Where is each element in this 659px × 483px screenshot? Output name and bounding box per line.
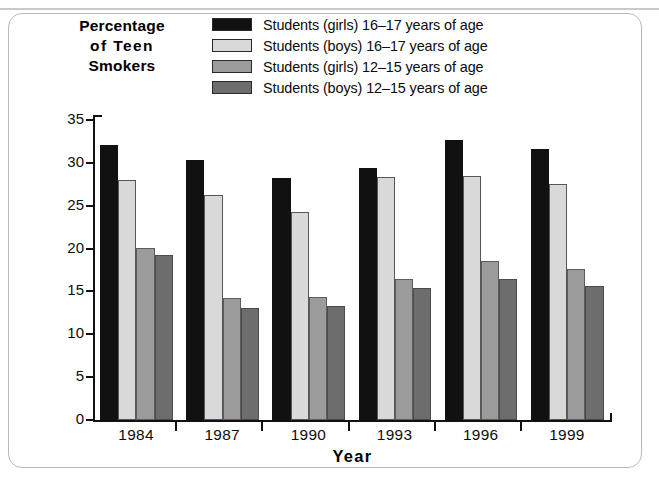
y-axis-title-line-2: of Teen xyxy=(52,36,192,56)
legend-item: Students (boys) 16–17 years of age xyxy=(212,35,488,56)
legend-item-label: Students (boys) 12–15 years of age xyxy=(263,80,488,96)
legend-item-label: Students (girls) 16–17 years of age xyxy=(263,17,483,33)
bar-group xyxy=(445,120,518,420)
legend-swatch-icon xyxy=(212,39,252,52)
bar xyxy=(549,184,567,420)
x-axis-tick-label: 1999 xyxy=(524,426,610,444)
x-axis-tick-mark xyxy=(348,421,350,431)
bar xyxy=(499,279,517,420)
y-axis-top-cap xyxy=(93,115,102,117)
legend-swatch-icon xyxy=(212,18,252,31)
bar xyxy=(155,255,173,420)
bar xyxy=(241,308,259,420)
bar xyxy=(100,145,118,420)
y-axis-tick-label: 5 xyxy=(76,367,84,384)
x-axis-tick-mark xyxy=(261,421,263,431)
bar xyxy=(377,177,395,420)
legend-swatch-icon xyxy=(212,60,252,73)
bar-group xyxy=(186,120,259,420)
x-axis-line xyxy=(93,420,612,422)
bar xyxy=(481,261,499,420)
x-axis-tick-mark xyxy=(434,421,436,431)
x-axis-tick-label: 1996 xyxy=(438,426,524,444)
legend-item-label: Students (girls) 12–15 years of age xyxy=(263,59,483,75)
x-axis-tick-label: 1993 xyxy=(352,426,438,444)
y-axis-tick-mark xyxy=(86,333,94,335)
bar xyxy=(585,286,603,420)
y-axis-tick-mark xyxy=(86,248,94,250)
bar-group xyxy=(531,120,604,420)
bar xyxy=(463,176,481,420)
y-axis-title-line-3: Smokers xyxy=(52,56,192,76)
bar xyxy=(118,180,136,420)
bar xyxy=(186,160,204,420)
y-axis-tick-label: 0 xyxy=(76,410,84,427)
legend-item: Students (girls) 16–17 years of age xyxy=(212,14,488,35)
legend-item-label: Students (boys) 16–17 years of age xyxy=(263,38,488,54)
x-axis-tick-label: 1987 xyxy=(179,426,265,444)
page-top-rule xyxy=(0,8,659,10)
bar xyxy=(223,298,241,420)
x-axis-end-cap xyxy=(610,413,612,422)
legend-item: Students (girls) 12–15 years of age xyxy=(212,56,488,77)
y-axis-tick-mark xyxy=(86,290,94,292)
y-axis-title: Percentage of Teen Smokers xyxy=(52,16,192,76)
bar xyxy=(531,149,549,420)
y-axis-tick-label: 20 xyxy=(67,239,84,256)
x-axis-tick-mark xyxy=(175,421,177,431)
chart-page: Percentage of Teen Smokers Students (gir… xyxy=(0,0,659,483)
y-axis-title-line-1: Percentage xyxy=(52,16,192,36)
bar xyxy=(445,140,463,420)
bar xyxy=(272,178,290,420)
x-axis-tick-label: 1990 xyxy=(265,426,351,444)
legend-swatch-icon xyxy=(212,81,252,94)
x-axis-tick-label: 1984 xyxy=(93,426,179,444)
bar xyxy=(136,248,154,420)
y-axis-tick-label: 30 xyxy=(67,153,84,170)
bar xyxy=(327,306,345,420)
y-axis-tick-label: 10 xyxy=(67,324,84,341)
bar xyxy=(291,212,309,420)
plot-area: 05101520253035198419871990199319961999 xyxy=(93,120,610,420)
legend-item: Students (boys) 12–15 years of age xyxy=(212,77,488,98)
y-axis-line xyxy=(93,115,95,420)
bar xyxy=(204,195,222,420)
bar-group xyxy=(272,120,345,420)
y-axis-tick-mark xyxy=(86,376,94,378)
y-axis-tick-mark xyxy=(86,205,94,207)
bar-group xyxy=(359,120,432,420)
y-axis-tick-mark xyxy=(86,419,94,421)
y-axis-tick-label: 15 xyxy=(67,281,84,298)
x-axis-title: Year xyxy=(93,447,612,466)
y-axis-tick-mark xyxy=(86,119,94,121)
bar xyxy=(413,288,431,420)
x-axis-tick-mark xyxy=(520,421,522,431)
bar xyxy=(359,168,377,420)
y-axis-tick-label: 35 xyxy=(67,110,84,127)
bar-group xyxy=(100,120,173,420)
chart-legend: Students (girls) 16–17 years of ageStude… xyxy=(212,14,488,98)
y-axis-tick-label: 25 xyxy=(67,196,84,213)
y-axis-tick-mark xyxy=(86,162,94,164)
bar xyxy=(309,297,327,420)
bar xyxy=(567,269,585,420)
bar xyxy=(395,279,413,420)
